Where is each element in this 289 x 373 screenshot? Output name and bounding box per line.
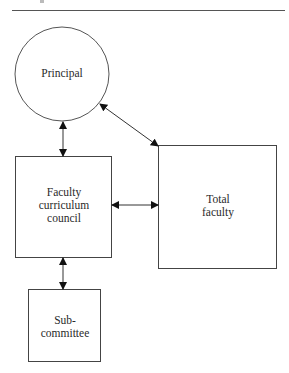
subcommittee-label-line-1: Sub- <box>29 314 101 327</box>
council-label: Faculty curriculum council <box>16 186 112 225</box>
principal-label: Principal <box>15 67 109 80</box>
subcommittee-label-line-2: committee <box>29 327 101 340</box>
principal-label-text: Principal <box>41 67 83 79</box>
total-faculty-label-line-1: Total <box>159 193 277 206</box>
council-label-line-3: council <box>16 212 112 225</box>
council-label-line-2: curriculum <box>16 199 112 212</box>
total-faculty-label: Total faculty <box>159 193 277 219</box>
total-faculty-label-line-2: faculty <box>159 206 277 219</box>
edge-principal-total-faculty <box>100 104 158 146</box>
subcommittee-label: Sub- committee <box>29 314 101 340</box>
council-label-line-1: Faculty <box>16 186 112 199</box>
